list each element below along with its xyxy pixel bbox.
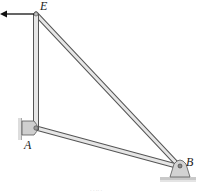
truss-diagram: E A B · · ·· · [0, 0, 202, 193]
pin-a [22, 121, 38, 135]
member-e-a [33, 14, 39, 130]
member-e-b [36, 14, 180, 167]
label-b: B [186, 155, 194, 169]
load-arrow-e [0, 11, 34, 18]
arrow-head-icon [0, 11, 7, 18]
wall-support-a [18, 118, 21, 140]
label-a: A [23, 138, 32, 152]
ground-support-b [160, 177, 196, 182]
pin-e [34, 12, 38, 16]
label-e: E [39, 0, 48, 13]
caption: · · ·· · [90, 188, 102, 193]
